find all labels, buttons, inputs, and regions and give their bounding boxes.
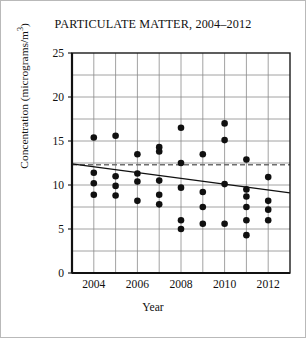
data-point [221,181,228,188]
scatter-plot: 0510152025 20042006200820102012 [1,1,306,338]
data-point [265,174,272,181]
data-point [134,198,141,205]
data-point [112,173,119,180]
data-point [91,180,98,187]
data-point [178,184,185,191]
y-tick-label: 25 [52,47,64,60]
y-tick-label: 10 [52,179,64,192]
data-point [134,151,141,158]
data-point [200,189,207,196]
chart-figure: PARTICULATE MATTER, 2004–2012 Concentrat… [0,0,306,338]
data-point [243,193,250,200]
data-point [243,217,250,224]
y-tick-label: 20 [52,91,64,104]
x-tick-label: 2010 [213,278,236,291]
x-axis-ticks: 20042006200820102012 [82,278,280,291]
y-tick-label: 5 [58,223,64,236]
y-tick-label: 0 [58,267,64,280]
x-tick-label: 2006 [126,278,149,291]
x-tick-label: 2008 [169,278,192,291]
data-point [221,120,228,127]
data-point [265,217,272,224]
data-point [91,169,98,176]
data-point [200,151,207,158]
data-point [265,198,272,205]
data-point [91,134,98,141]
data-point [243,204,250,211]
data-point [178,217,185,224]
data-point [178,160,185,167]
data-point [112,183,119,190]
data-point [243,156,250,163]
data-point [200,204,207,211]
x-tick-label: 2004 [82,278,105,291]
data-point [91,191,98,198]
y-tick-label: 15 [52,135,64,148]
data-point [243,232,250,239]
data-point [134,178,141,185]
data-point [178,125,185,132]
data-point [156,191,163,198]
data-point [112,192,119,199]
data-point [221,220,228,227]
data-point [156,148,163,155]
data-point [200,220,207,227]
data-point [134,170,141,177]
data-point [221,137,228,144]
data-point [156,201,163,208]
data-point [112,132,119,139]
x-tick-label: 2012 [257,278,280,291]
data-point [178,226,185,233]
data-point [243,186,250,193]
y-axis-ticks: 0510152025 [52,47,72,280]
data-point [156,177,163,184]
data-point [265,206,272,213]
